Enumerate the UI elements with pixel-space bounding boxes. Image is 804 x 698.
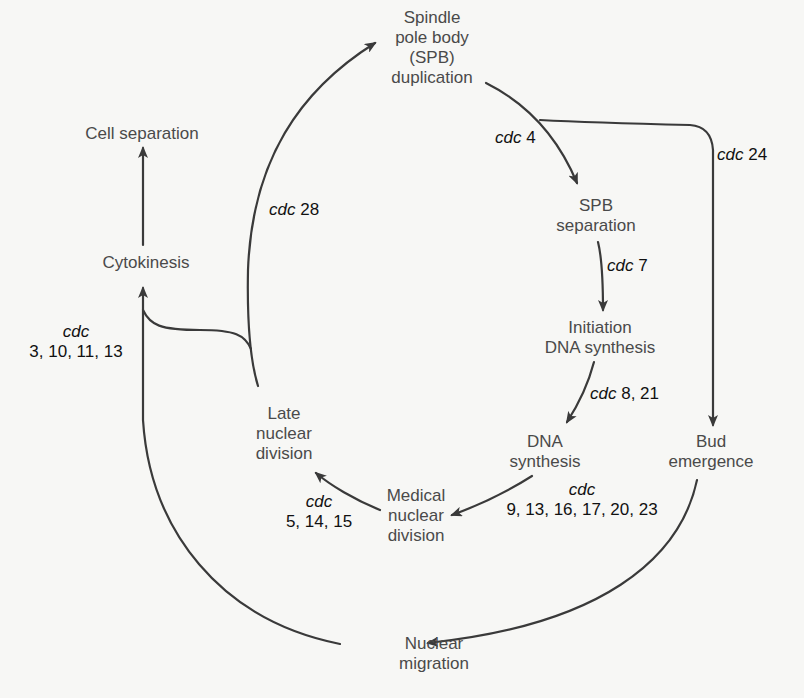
- stage-late-nuclear-division: Late nuclear division: [256, 404, 313, 464]
- arrow-branch-cytokinesis: [143, 310, 251, 349]
- gene-label-dna-synthesis: cdc9, 13, 16, 17, 20, 23: [506, 480, 657, 520]
- gene-label-cdc8-21: cdc 8, 21: [590, 384, 659, 404]
- gene-label-cdc7: cdc 7: [607, 256, 648, 276]
- gene-label-cdc28: cdc 28: [269, 200, 319, 220]
- stage-initiation-dna-synthesis: Initiation DNA synthesis: [545, 318, 656, 358]
- arrow-cdc7: [598, 242, 603, 310]
- stage-nuclear-migration: Nuclear migration: [399, 634, 469, 674]
- stage-cytokinesis: Cytokinesis: [103, 253, 190, 273]
- stage-spb-separation: SPB separation: [556, 196, 635, 236]
- gene-label-cytokinesis: cdc3, 10, 11, 13: [29, 322, 122, 362]
- stage-dna-synthesis: DNA synthesis: [510, 432, 581, 472]
- stage-bud-emergence: Bud emergence: [668, 432, 753, 472]
- gene-label-cdc24: cdc 24: [717, 145, 767, 165]
- cell-cycle-diagram: Spindle pole body (SPB) duplication SPB …: [0, 0, 804, 698]
- stage-medial-nuclear-division: Medical nuclear division: [387, 486, 446, 546]
- gene-label-medial: cdc5, 14, 15: [286, 492, 352, 532]
- stage-cell-separation: Cell separation: [85, 124, 198, 144]
- gene-label-cdc4: cdc 4: [495, 128, 536, 148]
- stage-spb-duplication: Spindle pole body (SPB) duplication: [391, 8, 472, 88]
- arrow-migration-cytokinesis: [143, 288, 340, 644]
